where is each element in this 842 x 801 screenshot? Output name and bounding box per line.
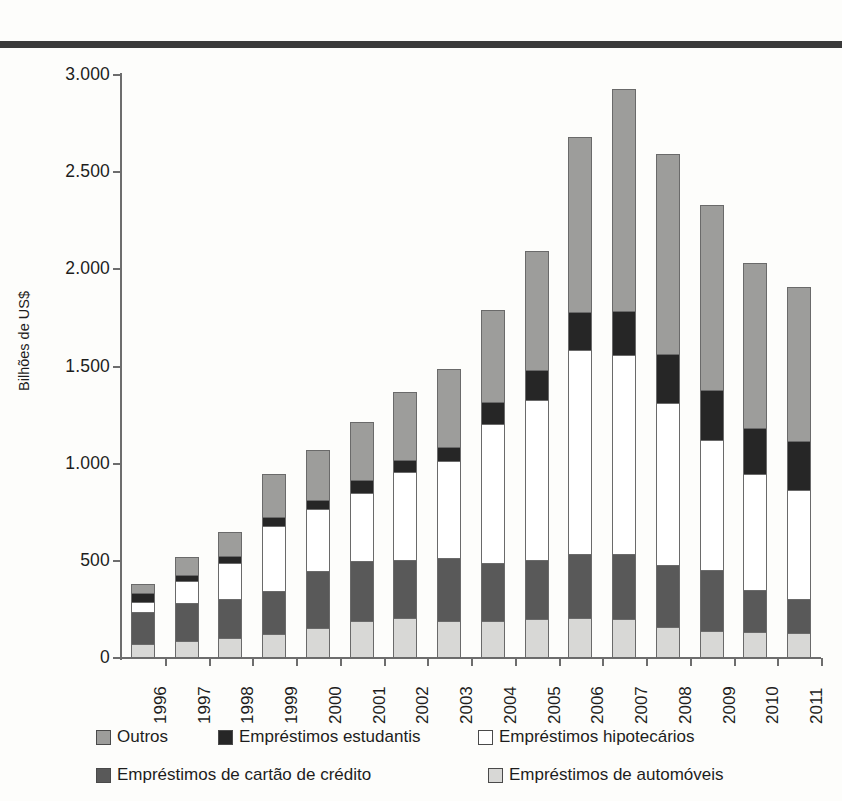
bar-segment: [613, 90, 635, 313]
legend-item[interactable]: Empréstimos de cartão de crédito: [96, 765, 371, 785]
legend-label: Empréstimos hipotecários: [499, 727, 695, 747]
bar-segment: [788, 600, 810, 634]
bar-segment: [219, 600, 241, 639]
legend-item[interactable]: Empréstimos hipotecários: [478, 727, 695, 747]
y-axis-title: Bilhões de US$: [16, 246, 32, 436]
legend-row: Empréstimos de cartão de créditoEmprésti…: [96, 765, 842, 793]
bar-stack[interactable]: [700, 205, 724, 658]
bar-segment: [482, 403, 504, 424]
bar-segment: [657, 566, 679, 628]
x-axis-tick: [821, 658, 823, 666]
x-axis-tick-label: 2007: [632, 686, 652, 724]
bar-segment: [438, 622, 460, 657]
x-axis-tick-label: 2010: [763, 686, 783, 724]
bar-segment: [526, 252, 548, 372]
x-axis-tick: [734, 658, 736, 666]
chart-legend: OutrosEmpréstimos estudantisEmpréstimos …: [96, 727, 842, 793]
bar-segment: [307, 510, 329, 572]
y-axis-tick-label: 1.500: [38, 356, 110, 377]
bar-segment: [788, 491, 810, 600]
legend-swatch-icon: [488, 768, 503, 783]
bar-segment: [263, 592, 285, 635]
bar-segment: [526, 371, 548, 400]
x-axis-tick-label: 2002: [413, 686, 433, 724]
bar-stack[interactable]: [306, 450, 330, 658]
x-axis-tick: [471, 658, 473, 666]
bar-segment: [788, 442, 810, 491]
legend-swatch-icon: [218, 730, 233, 745]
bar-segment: [701, 571, 723, 632]
bar-segment: [701, 632, 723, 657]
legend-label: Empréstimos de automóveis: [509, 765, 723, 785]
bar-segment: [613, 620, 635, 657]
x-axis-tick-label: 1996: [151, 686, 171, 724]
bar-segment: [132, 603, 154, 614]
bar-stack[interactable]: [131, 584, 155, 658]
bar-segment: [307, 629, 329, 657]
bar-segment: [744, 633, 766, 657]
legend-item[interactable]: Empréstimos estudantis: [218, 727, 420, 747]
bar-segment: [657, 628, 679, 657]
bar-segment: [176, 558, 198, 576]
y-axis-tick-label: 2.000: [38, 258, 110, 279]
bar-segment: [657, 155, 679, 355]
bar-stack[interactable]: [612, 89, 636, 658]
bar-stack[interactable]: [175, 557, 199, 658]
legend-label: Outros: [117, 727, 168, 747]
bar-stack[interactable]: [656, 154, 680, 658]
bar-stack[interactable]: [218, 532, 242, 658]
bar-segment: [132, 645, 154, 657]
bar-segment: [219, 557, 241, 564]
bar-segment: [351, 494, 373, 562]
bar-stack[interactable]: [525, 251, 549, 658]
x-axis-tick-label: 2001: [370, 686, 390, 724]
x-axis-tick-label: 1997: [195, 686, 215, 724]
bar-stack[interactable]: [437, 369, 461, 658]
bar-segment: [569, 619, 591, 657]
bar-segment: [569, 313, 591, 351]
x-axis-tick: [296, 658, 298, 666]
bar-stack[interactable]: [743, 263, 767, 658]
bar-stack[interactable]: [262, 474, 286, 658]
x-axis-tick-label: 2005: [545, 686, 565, 724]
bar-segment: [482, 311, 504, 403]
legend-item[interactable]: Outros: [96, 727, 168, 747]
x-axis-tick-label: 2008: [676, 686, 696, 724]
bar-segment: [263, 635, 285, 657]
bar-segment: [351, 423, 373, 481]
bar-segment: [307, 501, 329, 511]
bar-segment: [219, 533, 241, 557]
bar-segment: [788, 288, 810, 442]
bar-segment: [307, 572, 329, 628]
bar-segment: [438, 448, 460, 462]
bar-stack[interactable]: [393, 392, 417, 658]
bar-segment: [351, 622, 373, 657]
bar-segment: [613, 356, 635, 555]
bar-segment: [394, 619, 416, 657]
bar-segment: [307, 451, 329, 501]
bar-segment: [132, 585, 154, 594]
bar-segment: [569, 351, 591, 555]
bar-stack[interactable]: [481, 310, 505, 658]
x-axis-tick: [209, 658, 211, 666]
bar-segment: [526, 561, 548, 620]
bar-stack[interactable]: [350, 422, 374, 658]
bar-segment: [569, 138, 591, 313]
bar-segment: [438, 559, 460, 622]
bar-segment: [569, 555, 591, 619]
x-axis-tick: [559, 658, 561, 666]
bar-segment: [744, 264, 766, 429]
bar-segment: [701, 206, 723, 391]
x-axis-tick: [384, 658, 386, 666]
bar-segment: [482, 622, 504, 657]
bar-stack[interactable]: [568, 137, 592, 658]
bar-stack[interactable]: [787, 287, 811, 658]
bar-segment: [394, 473, 416, 560]
bar-segment: [482, 425, 504, 564]
bar-segment: [438, 462, 460, 559]
x-axis-tick: [340, 658, 342, 666]
bar-segment: [526, 401, 548, 561]
bar-segment: [657, 404, 679, 565]
y-axis-tick-label: 0: [38, 647, 110, 668]
legend-item[interactable]: Empréstimos de automóveis: [488, 765, 723, 785]
